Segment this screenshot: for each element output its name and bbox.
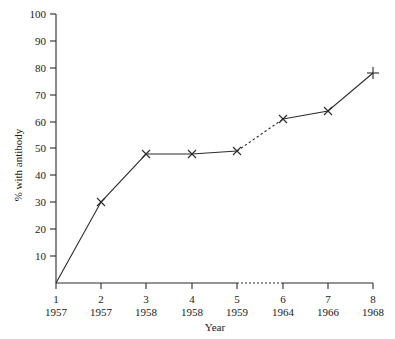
x-tick-num-1: 1: [53, 293, 59, 305]
series-line-dotted-gap: [237, 119, 283, 151]
x-axis-title: Year: [205, 321, 226, 333]
x-tick-num-3: 3: [143, 293, 149, 305]
x-tick-year-6: 1964: [272, 306, 295, 318]
y-tick-label-20: 20: [35, 223, 47, 235]
y-tick-label-10: 10: [35, 250, 47, 262]
y-tick-label-40: 40: [35, 169, 47, 181]
x-tick-year-8: 1968: [362, 306, 385, 318]
data-point-marker-2: [97, 198, 105, 206]
y-tick-label-60: 60: [35, 116, 47, 128]
antibody-line-chart: 100 90 80 70 60 50 40 30 20 10 1 2 3 4 5…: [0, 0, 395, 339]
series-line-solid-left: [56, 151, 237, 283]
x-tick-marks: [56, 283, 373, 289]
x-tick-num-4: 4: [189, 293, 195, 305]
y-tick-label-80: 80: [35, 62, 47, 74]
x-tick-num-5: 5: [234, 293, 240, 305]
x-tick-year-5: 1959: [226, 306, 249, 318]
chart-canvas: 100 90 80 70 60 50 40 30 20 10 1 2 3 4 5…: [0, 0, 395, 339]
x-tick-year-3: 1958: [135, 306, 158, 318]
y-tick-label-90: 90: [35, 35, 47, 47]
x-tick-year-7: 1966: [317, 306, 340, 318]
y-tick-label-50: 50: [35, 142, 47, 154]
x-tick-num-8: 8: [370, 293, 376, 305]
x-tick-year-1: 1957: [45, 306, 68, 318]
x-tick-num-2: 2: [98, 293, 104, 305]
x-tick-num-7: 7: [325, 293, 331, 305]
y-tick-marks: [50, 14, 56, 256]
x-tick-year-2: 1957: [90, 306, 113, 318]
y-tick-label-100: 100: [30, 8, 47, 20]
y-axis-title: % with antibody: [12, 128, 24, 201]
y-tick-label-70: 70: [35, 89, 47, 101]
y-tick-label-30: 30: [35, 196, 47, 208]
series-line-solid-right: [283, 73, 373, 119]
x-tick-num-6: 6: [280, 293, 286, 305]
x-tick-year-4: 1958: [181, 306, 204, 318]
